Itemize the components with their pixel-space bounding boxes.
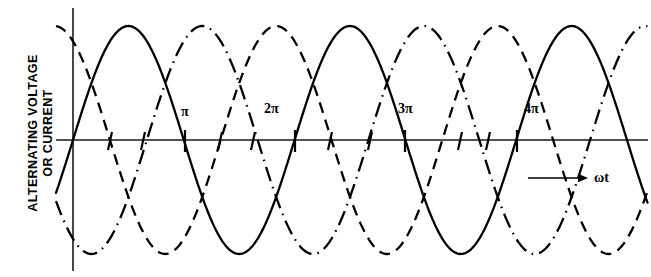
three-phase-waveform-figure: ALTERNATING VOLTAGE OR CURRENT π 2π 3π 4…	[0, 0, 651, 277]
waveform-plot	[0, 0, 651, 277]
x-tick-label-3pi: 3π	[398, 101, 413, 117]
x-tick-label-4pi: 4π	[524, 101, 539, 117]
x-axis-arrow-icon	[528, 174, 588, 182]
axis-tick-marks	[108, 130, 517, 152]
x-tick-label-2pi: 2π	[264, 101, 279, 117]
x-axis-label: ωt	[594, 170, 609, 186]
x-tick-label-pi: π	[181, 104, 189, 120]
y-axis-label: ALTERNATING VOLTAGE OR CURRENT	[26, 13, 56, 253]
